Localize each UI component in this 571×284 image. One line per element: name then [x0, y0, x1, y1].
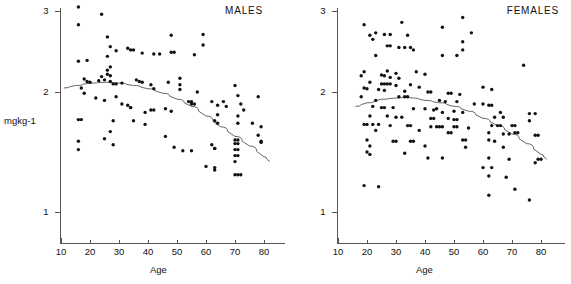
scatter-point — [502, 132, 505, 135]
scatter-point — [181, 149, 184, 152]
scatter-point — [383, 106, 386, 109]
scatter-point — [429, 117, 432, 120]
scatter-point — [403, 152, 406, 155]
scatter-point — [236, 138, 239, 141]
scatter-point — [365, 150, 368, 153]
scatter-point — [100, 75, 103, 78]
scatter-point — [409, 124, 412, 127]
scatter-point — [432, 108, 435, 111]
scatter-point — [259, 125, 262, 128]
scatter-point — [502, 146, 505, 149]
scatter-point — [109, 80, 112, 83]
scatter-point — [461, 40, 464, 43]
scatter-point — [114, 95, 117, 98]
scatter-point — [507, 132, 510, 135]
scatter-point — [114, 82, 117, 85]
scatter-point — [418, 85, 421, 88]
scatter-point — [368, 144, 371, 147]
scatter-point — [461, 48, 464, 51]
scatter-point — [368, 114, 371, 117]
scatter-point — [164, 135, 167, 138]
scatter-point — [77, 60, 80, 63]
scatter-point — [141, 81, 144, 84]
scatter-point — [126, 47, 129, 50]
scatter-point — [394, 140, 397, 143]
scatter-point — [135, 78, 138, 81]
scatter-point — [383, 89, 386, 92]
scatter-point — [138, 80, 141, 83]
scatter-point — [386, 44, 389, 47]
scatter-point — [236, 142, 239, 145]
scatter-point — [409, 140, 412, 143]
scatter-point — [455, 118, 458, 121]
scatter-point — [507, 158, 510, 161]
scatter-point — [386, 114, 389, 117]
scatter-point — [152, 52, 155, 55]
scatter-point — [77, 5, 80, 8]
scatter-point — [423, 107, 426, 110]
scatter-point — [458, 93, 461, 96]
scatter-point — [377, 185, 380, 188]
scatter-point — [225, 105, 228, 108]
scatter-point — [467, 126, 470, 129]
scatter-point — [455, 100, 458, 103]
scatter-point — [178, 83, 181, 86]
scatter-point — [493, 140, 496, 143]
scatter-point — [490, 88, 493, 91]
scatter-point — [371, 105, 374, 108]
scatter-point — [429, 90, 432, 93]
scatter-point — [415, 70, 418, 73]
scatter-point — [461, 111, 464, 114]
scatter-point — [534, 134, 537, 137]
scatter-point — [83, 77, 86, 80]
scatter-point — [236, 148, 239, 151]
scatter-point — [114, 49, 117, 52]
scatter-point — [106, 35, 109, 38]
scatter-point — [83, 92, 86, 95]
scatter-point — [432, 117, 435, 120]
scatter-point — [196, 90, 199, 93]
scatter-point — [505, 176, 508, 179]
scatter-point — [496, 124, 499, 127]
scatter-point — [391, 106, 394, 109]
scatter-point — [103, 78, 106, 81]
scatter-point — [172, 51, 175, 54]
scatter-point — [213, 168, 216, 171]
scatter-point — [77, 140, 80, 143]
scatter-point — [389, 82, 392, 85]
scatter-point — [193, 102, 196, 105]
scatter-point — [112, 82, 115, 85]
scatter-point — [193, 53, 196, 56]
scatter-point — [426, 156, 429, 159]
scatter-point — [233, 173, 236, 176]
scatter-point — [528, 112, 531, 115]
scatter-point — [487, 138, 490, 141]
scatter-point — [120, 81, 123, 84]
scatter-point — [400, 116, 403, 119]
scatter-point — [97, 79, 100, 82]
scatter-point — [152, 108, 155, 111]
scatter-point — [374, 129, 377, 132]
scatter-point — [522, 64, 525, 67]
scatter-point — [371, 38, 374, 41]
scatter-point — [152, 87, 155, 90]
scatter-point — [435, 107, 438, 110]
scatter-point — [380, 73, 383, 76]
scatter-point — [455, 54, 458, 57]
scatter-point — [461, 138, 464, 141]
scatter-point — [167, 81, 170, 84]
scatter-point — [383, 33, 386, 36]
scatter-point — [132, 119, 135, 122]
scatter-point — [233, 84, 236, 87]
scatter-point — [470, 31, 473, 34]
scatter-point — [236, 122, 239, 125]
scatter-point — [149, 83, 152, 86]
scatter-point — [481, 85, 484, 88]
scatter-point — [216, 122, 219, 125]
scatter-point — [360, 74, 363, 77]
scatter-point — [455, 125, 458, 128]
scatter-point — [380, 82, 383, 85]
scatter-point — [528, 119, 531, 122]
scatter-point — [441, 156, 444, 159]
scatter-point — [109, 130, 112, 133]
